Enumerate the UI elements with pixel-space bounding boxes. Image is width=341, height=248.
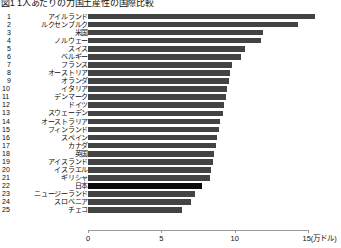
bar-rank: 6	[7, 53, 11, 61]
bar-rank: 21	[2, 174, 10, 182]
bar	[88, 143, 216, 149]
bar-rank: 9	[7, 77, 11, 85]
x-tick	[235, 230, 236, 233]
bar	[88, 127, 219, 133]
bar-category-label: 日本	[75, 182, 89, 190]
bar-rank: 4	[7, 37, 11, 45]
bar-category-label: フィンランド	[48, 126, 89, 134]
bar-row: 11デンマーク	[0, 94, 341, 102]
bar-rank: 5	[7, 45, 11, 53]
bar-category-label: オーストリア	[48, 69, 89, 77]
bar-plot-area: 1アイルランド2ルクセンブルク3米国4ノルウェー5スイス6ベルギー7フランス8オ…	[0, 13, 341, 230]
bar-category-label: オーストラリア	[41, 118, 88, 126]
bar-category-label: 英国	[75, 150, 89, 158]
bar-row: 23ニュージーランド	[0, 191, 341, 199]
bar-category-label: フランス	[61, 61, 88, 69]
bar-row: 5スイス	[0, 45, 341, 53]
bar-category-label: アイルランド	[48, 13, 89, 21]
x-tick	[161, 230, 162, 233]
bar-rank: 10	[2, 85, 10, 93]
bar-row: 20イスラエル	[0, 166, 341, 174]
bar-row: 19アイスランド	[0, 158, 341, 166]
bar	[88, 54, 241, 60]
bar	[88, 38, 261, 44]
bar-row: 16スペイン	[0, 134, 341, 142]
bar-rank: 1	[7, 13, 11, 21]
bar-rank: 14	[2, 118, 10, 126]
bar	[88, 70, 230, 76]
bar	[88, 30, 263, 36]
bar-rank: 22	[2, 182, 10, 190]
bar	[88, 167, 211, 173]
bar-row: 9オランダ	[0, 78, 341, 86]
bar	[88, 14, 315, 20]
bar-row: 24スロベニア	[0, 199, 341, 207]
bar-rank: 11	[2, 93, 9, 101]
x-tick	[88, 230, 89, 233]
bar-rank: 12	[2, 101, 10, 109]
bar	[88, 119, 220, 125]
bar-row: 8オーストリア	[0, 70, 341, 78]
bar	[88, 151, 214, 157]
bar-category-label: 米国	[75, 29, 89, 37]
chart-title: 図1 1人あたりの力国土産性の国際比較	[1, 0, 154, 8]
bar-row: 6ベルギー	[0, 53, 341, 61]
bar-row: 15フィンランド	[0, 126, 341, 134]
bar-rank: 16	[2, 134, 10, 142]
bar	[88, 199, 191, 205]
bar-row: 25チェコ	[0, 207, 341, 215]
bar-rank: 17	[2, 142, 10, 150]
bar-category-label: チェコ	[68, 206, 88, 214]
bar	[88, 94, 226, 100]
bar-category-label: スペイン	[61, 134, 88, 142]
bar-rank: 2	[7, 21, 11, 29]
x-axis: 051015(万ドル)	[0, 230, 341, 248]
bar-category-label: ノルウェー	[54, 37, 88, 45]
bar-row: 21ギリシャ	[0, 175, 341, 183]
bar-rank: 24	[2, 198, 10, 206]
bar-category-label: ニュージーランド	[34, 190, 88, 198]
bar	[88, 135, 217, 141]
x-tick-label: 0	[86, 234, 90, 243]
bar-rank: 18	[2, 150, 10, 158]
bar-category-label: カナダ	[68, 142, 88, 150]
x-tick-label: 15(万ドル)	[303, 234, 337, 243]
bar-category-label: スロベニア	[54, 198, 88, 206]
bar	[88, 86, 227, 92]
bar-category-label: スウェーデン	[48, 109, 89, 117]
x-tick	[308, 230, 309, 233]
bar-row: 4ノルウェー	[0, 37, 341, 45]
bar-rank: 8	[7, 69, 11, 77]
chart-root: 図1 1人あたりの力国土産性の国際比較 1アイルランド2ルクセンブルク3米国4ノ…	[0, 0, 341, 248]
bar	[88, 46, 245, 52]
bar-row: 3米国	[0, 29, 341, 37]
bar-row: 10イタリア	[0, 86, 341, 94]
bar	[88, 22, 298, 28]
x-tick-label: 5	[159, 234, 163, 243]
bar-rank: 19	[2, 158, 10, 166]
bar-rank: 25	[2, 206, 10, 214]
bar	[88, 175, 210, 181]
bar	[88, 111, 223, 117]
bar-category-label: ルクセンブルク	[41, 21, 88, 29]
bar-rank: 7	[7, 61, 11, 69]
bar-rank: 3	[7, 29, 11, 37]
bar-rank: 13	[2, 109, 10, 117]
bar-category-label: スイス	[68, 45, 88, 53]
bar	[88, 207, 182, 213]
bar-rank: 23	[2, 190, 10, 198]
bar-category-label: アイスランド	[48, 158, 89, 166]
bar-category-label: オランダ	[61, 77, 88, 85]
bar	[88, 62, 232, 68]
bar-category-label: ギリシャ	[61, 174, 88, 182]
bar	[88, 102, 224, 108]
bar	[88, 191, 195, 197]
bar-row: 2ルクセンブルク	[0, 21, 341, 29]
x-tick-label: 10	[230, 234, 238, 243]
bar-row: 17カナダ	[0, 142, 341, 150]
bar-category-label: デンマーク	[54, 93, 88, 101]
bar-category-label: イスラエル	[54, 166, 88, 174]
bar	[88, 78, 229, 84]
bar-rank: 15	[2, 126, 10, 134]
bar	[88, 183, 202, 189]
